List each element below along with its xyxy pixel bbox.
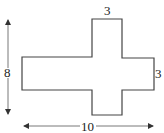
top-width-label: 3	[104, 3, 111, 18]
cross-diagram: 3 3 8 10	[0, 0, 164, 133]
total-height-label: 8	[4, 65, 11, 80]
cross-shape	[22, 19, 154, 115]
total-width-label: 10	[81, 119, 94, 133]
right-height-label: 3	[155, 66, 162, 81]
